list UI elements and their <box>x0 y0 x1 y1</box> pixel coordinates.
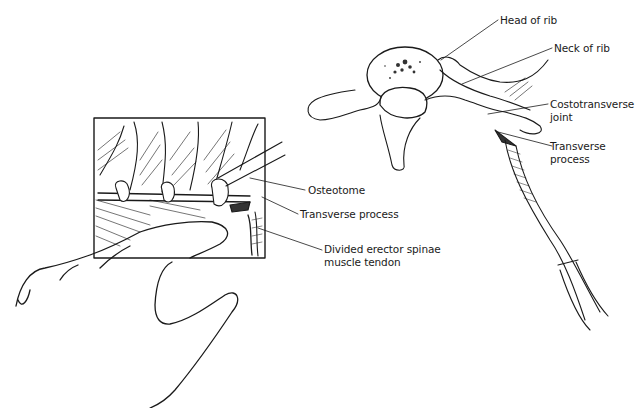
label-osteotome: Osteotome <box>308 184 365 196</box>
label-neck-of-rib: Neck of rib <box>554 42 610 54</box>
label-transverse-process-left: Transverse process <box>300 208 399 220</box>
label-divided-erector-line1: Divided erector spinae <box>324 243 441 255</box>
anatomical-illustration: Osteotome Transverse process Divided ere… <box>0 0 640 408</box>
illustration-artwork <box>0 0 640 408</box>
label-costotransverse-line2: joint <box>550 111 573 123</box>
surgeon-hand <box>16 222 238 408</box>
label-transverse-line2: process <box>550 153 590 165</box>
operative-field-inset <box>94 118 285 258</box>
thoracic-vertebra <box>308 47 548 170</box>
label-divided-erector-line2: muscle tendon <box>324 256 401 268</box>
label-transverse-line1: Transverse <box>550 140 606 152</box>
label-head-of-rib: Head of rib <box>500 14 557 26</box>
label-costotransverse-line1: Costotransverse <box>550 98 634 110</box>
